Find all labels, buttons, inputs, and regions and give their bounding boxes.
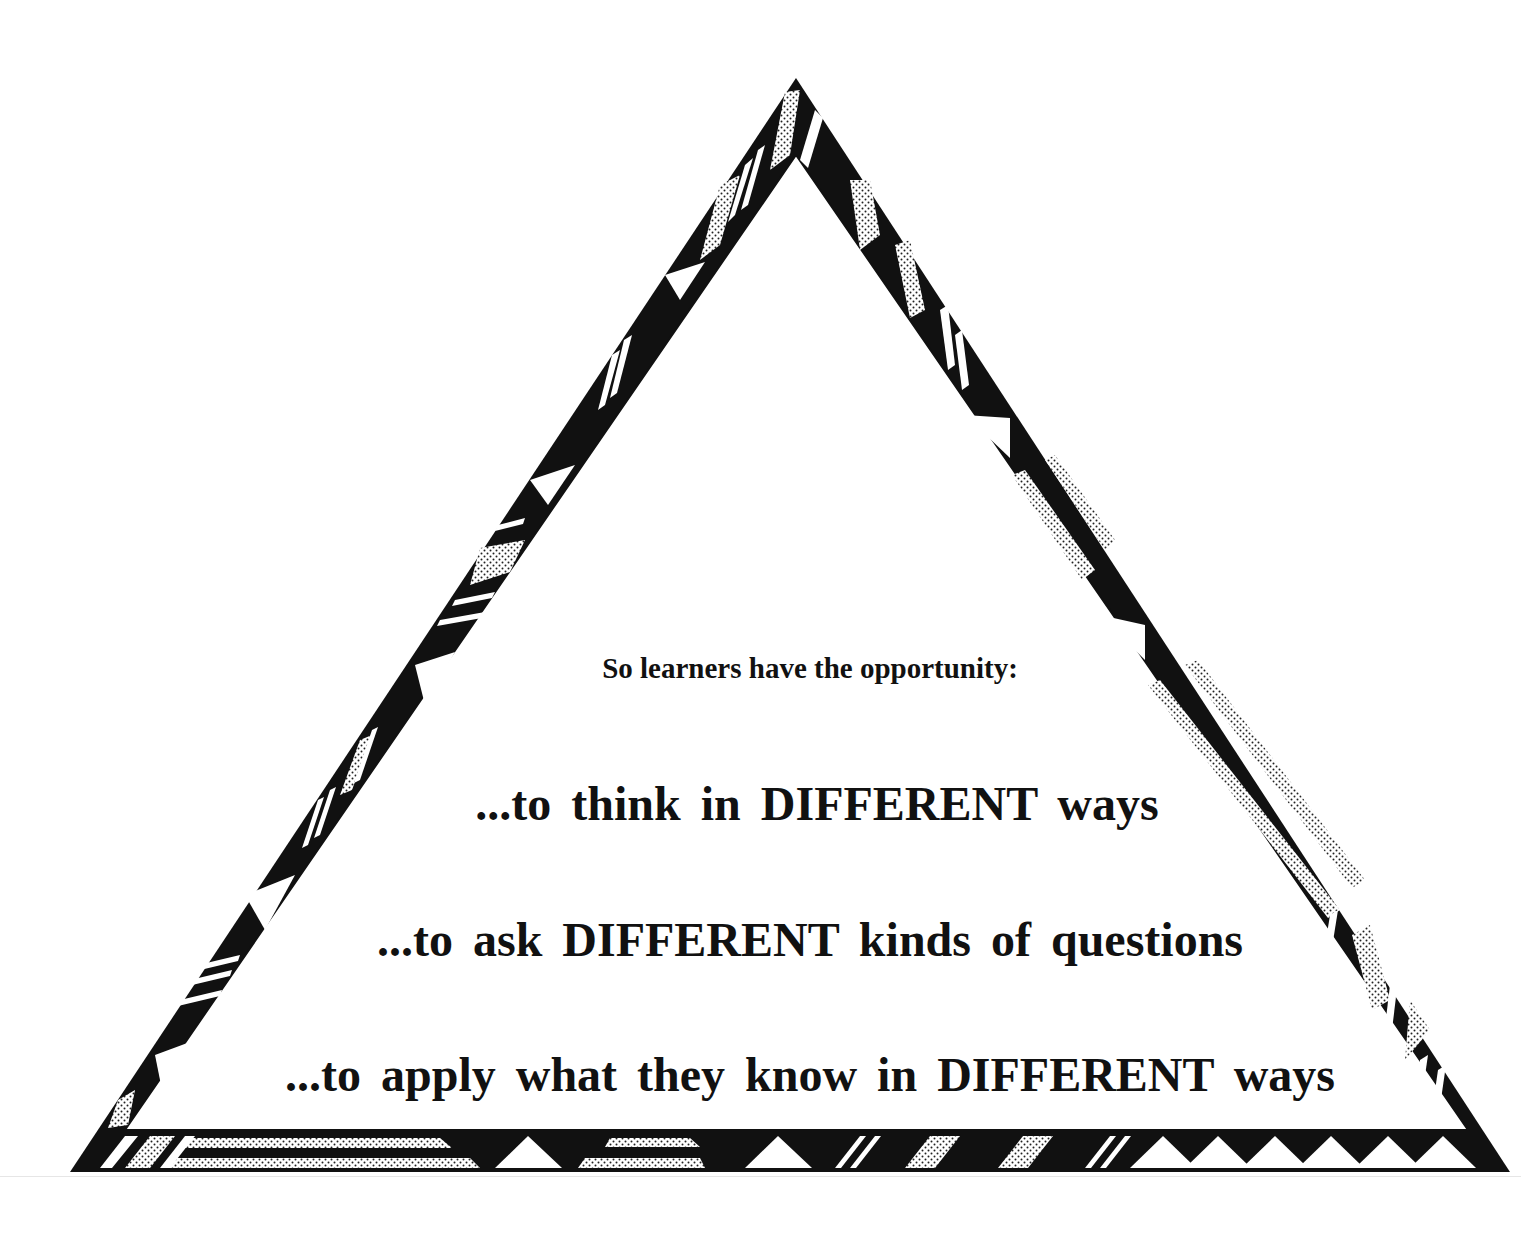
triangle-diagram: So learners have the opportunity: ...to …	[0, 0, 1521, 1259]
intro-text: So learners have the opportunity:	[602, 652, 1018, 685]
opportunity-line-apply: ...to apply what they know in DIFFERENT …	[285, 1047, 1335, 1102]
page-divider	[0, 1176, 1521, 1177]
opportunity-line-ask: ...to ask DIFFERENT kinds of questions	[377, 912, 1243, 967]
opportunity-line-think: ...to think in DIFFERENT ways	[475, 776, 1158, 831]
